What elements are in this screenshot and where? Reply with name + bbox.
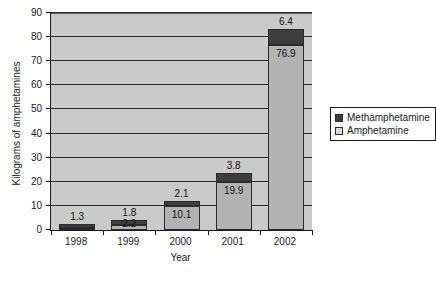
data-label-amphetamine: 10.1	[152, 209, 212, 220]
y-tick-mark	[46, 12, 51, 13]
data-label-amphetamine: 76.9	[256, 48, 316, 59]
x-category-label: 1998	[46, 236, 106, 247]
x-tick-mark	[312, 230, 313, 235]
bar-segment-methamphetamine	[164, 201, 200, 206]
x-category-label: 1999	[98, 236, 158, 247]
y-tick-mark	[46, 181, 51, 182]
bar-group: 2.21.8	[111, 13, 147, 230]
legend-swatch-dark-icon	[335, 114, 343, 122]
x-category-label: 2000	[151, 236, 211, 247]
x-tick-mark	[260, 230, 261, 235]
bar-segment-methamphetamine	[216, 173, 252, 182]
y-tick-label: 20	[12, 177, 42, 187]
legend-swatch-light-icon	[335, 127, 343, 135]
y-tick-label: 10	[12, 201, 42, 211]
x-tick-mark	[208, 230, 209, 235]
legend-label-amphetamine: Amphetamine	[347, 124, 409, 137]
y-tick-label: 80	[12, 32, 42, 42]
data-label-methamphetamine: 1.8	[99, 207, 159, 218]
y-axis-title: Kilograms of amphetamines	[11, 24, 22, 224]
bar-segment-amphetamine	[268, 45, 304, 230]
y-tick-label: 0	[12, 225, 42, 235]
data-label-methamphetamine: 1.3	[47, 211, 107, 222]
y-tick-mark	[46, 36, 51, 37]
legend-item-amphetamine: Amphetamine	[335, 124, 430, 137]
bar-segment-methamphetamine	[268, 29, 304, 44]
bar-group: 19.93.8	[216, 13, 252, 230]
bar-group: 1.3	[59, 13, 95, 230]
y-tick-mark	[46, 108, 51, 109]
x-tick-mark	[51, 230, 52, 235]
x-category-label: 2002	[255, 236, 315, 247]
y-tick-label: 60	[12, 80, 42, 90]
y-tick-mark	[46, 157, 51, 158]
y-tick-label: 30	[12, 153, 42, 163]
x-tick-mark	[103, 230, 104, 235]
x-category-label: 2001	[203, 236, 263, 247]
legend-item-methamphetamine: Methamphetamine	[335, 111, 430, 124]
data-label-methamphetamine: 3.8	[204, 160, 264, 171]
bar-group: 76.96.4	[268, 13, 304, 230]
y-tick-mark	[46, 205, 51, 206]
y-tick-mark	[46, 84, 51, 85]
x-tick-mark	[155, 230, 156, 235]
data-label-methamphetamine: 2.1	[152, 188, 212, 199]
y-tick-label: 50	[12, 104, 42, 114]
data-label-amphetamine: 19.9	[204, 185, 264, 196]
bar-segment-amphetamine	[59, 228, 95, 230]
plot-area: 0102030405060708090 1.32.21.810.12.119.9…	[50, 13, 312, 231]
data-label-methamphetamine: 6.4	[256, 16, 316, 27]
chart-legend: Methamphetamine Amphetamine	[330, 107, 436, 141]
y-tick-mark	[46, 133, 51, 134]
bar-segment-methamphetamine	[59, 224, 95, 227]
legend-label-methamphetamine: Methamphetamine	[347, 111, 430, 124]
x-axis-title: Year	[50, 252, 311, 263]
y-tick-label: 70	[12, 56, 42, 66]
bar-group: 10.12.1	[164, 13, 200, 230]
y-tick-label: 40	[12, 129, 42, 139]
y-tick-mark	[46, 60, 51, 61]
data-label-amphetamine: 2.2	[99, 218, 159, 229]
y-tick-label: 90	[12, 8, 42, 18]
